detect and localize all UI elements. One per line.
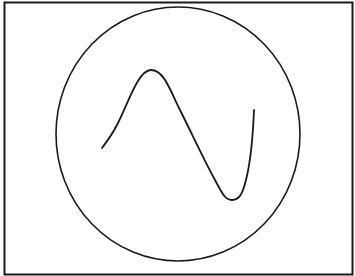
circle-outline <box>56 7 300 261</box>
diagram-canvas <box>0 0 355 276</box>
sine-wave-curve <box>102 70 254 200</box>
